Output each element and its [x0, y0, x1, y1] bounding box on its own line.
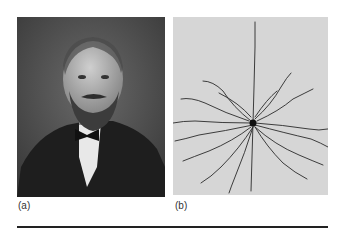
panel-a-label: (a) — [18, 200, 30, 211]
portrait-photo — [17, 17, 165, 197]
horizontal-rule — [17, 226, 328, 228]
panel-b-label: (b) — [175, 200, 187, 211]
neuron-illustration — [173, 17, 328, 195]
neuron-drawing — [173, 17, 328, 195]
soma — [250, 120, 257, 127]
portrait-illustration — [17, 17, 165, 197]
